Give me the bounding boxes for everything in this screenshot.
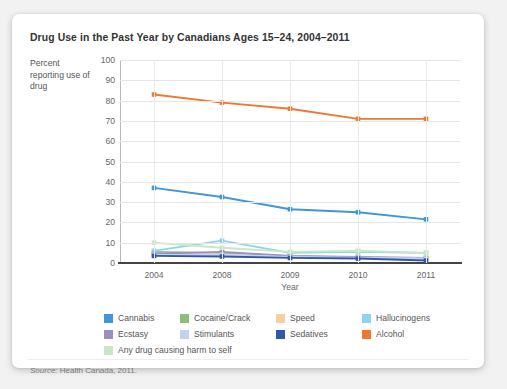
legend-item-speed[interactable]: Speed <box>276 313 315 323</box>
y-axis-tick-label: 80 <box>105 96 115 106</box>
legend-row: Any drug causing harm to self <box>104 342 464 358</box>
source-note: Source: Health Canada, 2011. <box>30 366 137 375</box>
y-axis-tick-label: 30 <box>105 197 115 207</box>
legend-label: Alcohol <box>376 329 404 339</box>
legend-item-ecstasy[interactable]: Ecstasy <box>104 329 148 339</box>
chart-plot-area: Percent reporting use of drug 0102030405… <box>30 54 466 294</box>
legend-row: CannabisCocaine/CrackSpeedHallucinogens <box>104 310 464 326</box>
page-background: Drug Use in the Past Year by Canadians A… <box>0 0 507 389</box>
legend-item-cannabis[interactable]: Cannabis <box>104 313 154 323</box>
x-axis-tick-label: 2004 <box>144 270 163 280</box>
plot-canvas: 0102030405060708090100200420082009201020… <box>120 60 460 263</box>
y-axis-tick-label: 40 <box>105 177 115 187</box>
gridline-vertical <box>154 60 155 263</box>
legend-label: Any drug causing harm to self <box>118 345 232 355</box>
gridline-vertical <box>358 60 359 263</box>
legend-swatch <box>104 314 113 323</box>
y-axis-tick-label: 10 <box>105 238 115 248</box>
y-axis-tick-label: 70 <box>105 116 115 126</box>
y-axis-tick-label: 50 <box>105 157 115 167</box>
legend-item-stimulants[interactable]: Stimulants <box>180 329 234 339</box>
legend-row: EcstasyStimulantsSedativesAlcohol <box>104 326 464 342</box>
legend-label: Cannabis <box>118 313 154 323</box>
source-value: Health Canada, 2011. <box>58 366 137 375</box>
page-title: Drug Use in the Past Year by Canadians A… <box>30 32 350 43</box>
legend-swatch <box>276 314 285 323</box>
x-axis-tick-label: 2011 <box>417 270 435 280</box>
x-axis-tick-label: 2008 <box>212 270 231 280</box>
legend-label: Hallucinogens <box>376 313 430 323</box>
legend-item-alcohol[interactable]: Alcohol <box>362 329 404 339</box>
legend-swatch <box>180 314 189 323</box>
legend-swatch <box>276 330 285 339</box>
y-axis-tick-label: 100 <box>101 55 115 65</box>
legend-label: Cocaine/Crack <box>194 313 250 323</box>
legend-item-sedatives[interactable]: Sedatives <box>276 329 328 339</box>
x-axis-title: Year <box>120 282 460 292</box>
chart-legend: CannabisCocaine/CrackSpeedHallucinogensE… <box>104 310 464 358</box>
legend-swatch <box>362 314 371 323</box>
legend-item-any-drug-causing-harm-to-self[interactable]: Any drug causing harm to self <box>104 345 232 355</box>
legend-swatch <box>180 330 189 339</box>
legend-item-cocaine-crack[interactable]: Cocaine/Crack <box>180 313 250 323</box>
source-label: Source: <box>30 366 58 375</box>
legend-label: Stimulants <box>194 329 234 339</box>
legend-swatch <box>104 346 113 355</box>
legend-label: Speed <box>290 313 315 323</box>
legend-item-hallucinogens[interactable]: Hallucinogens <box>362 313 430 323</box>
x-axis-tick-label: 2010 <box>348 270 367 280</box>
footer-divider <box>28 359 468 360</box>
x-axis-tick-label: 2009 <box>280 270 299 280</box>
y-axis-tick-label: 20 <box>105 217 115 227</box>
chart-card: Drug Use in the Past Year by Canadians A… <box>12 14 484 368</box>
y-axis-tick-label: 90 <box>105 75 115 85</box>
legend-label: Ecstasy <box>118 329 148 339</box>
y-axis-tick-label: 0 <box>110 258 115 268</box>
y-axis-tick-label: 60 <box>105 136 115 146</box>
gridline-vertical <box>426 60 427 263</box>
legend-swatch <box>104 330 113 339</box>
y-axis-title: Percent reporting use of drug <box>30 58 92 93</box>
gridline-vertical <box>290 60 291 263</box>
legend-swatch <box>362 330 371 339</box>
gridline-vertical <box>222 60 223 263</box>
legend-label: Sedatives <box>290 329 328 339</box>
